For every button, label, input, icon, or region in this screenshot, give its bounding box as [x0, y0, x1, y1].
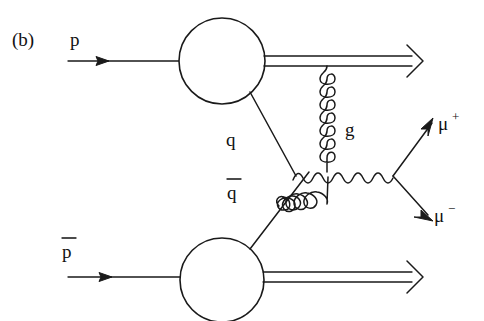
muon-minus-line: [393, 176, 433, 221]
muon-minus-label: μ: [434, 205, 444, 226]
panel-label: (b): [12, 29, 34, 51]
antiquark-line: [250, 172, 309, 249]
quark-label: q: [226, 129, 236, 150]
feynman-diagram-canvas: (b) p p q q g μ + μ −: [0, 0, 484, 321]
gluon-vertical-coil: [320, 66, 335, 172]
proton-remnant-double-line: [264, 45, 423, 77]
antiproton-remnant-double-line: [263, 261, 423, 293]
antiproton-interaction-blob: [180, 238, 264, 321]
feynman-diagram-figure: (b) p p q q g μ + μ −: [0, 0, 484, 321]
incoming-proton-line: [68, 57, 181, 66]
muon-plus-label: μ: [438, 113, 448, 134]
proton-interaction-blob: [179, 18, 265, 104]
muon-plus-line: [393, 118, 433, 176]
antiproton-label: p: [62, 241, 72, 262]
proton-label: p: [70, 29, 80, 50]
gluon-label: g: [345, 119, 355, 140]
muon-minus-charge-label: −: [448, 201, 455, 216]
muon-plus-charge-label: +: [452, 109, 459, 124]
antiquark-label: q: [227, 182, 237, 203]
gluon-diagonal-coil: [277, 177, 328, 211]
incoming-antiproton-line: [68, 273, 181, 282]
quark-line: [250, 92, 296, 176]
